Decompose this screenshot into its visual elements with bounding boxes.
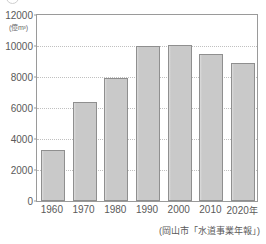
y-axis-unit-label: (億m³) [9,22,28,32]
y-axis-tick-mark [34,201,37,202]
y-axis-tick-label: 12000 [5,10,33,21]
y-axis-tick-label: 10000 [5,41,33,52]
y-axis-tick-mark [34,139,37,140]
bar [231,63,255,201]
bar [168,45,192,201]
x-axis-tick-label: 1990 [136,204,158,215]
plot-inner: 020004000600080001000012000 [37,15,257,201]
x-axis-tick-label: 2010 [199,204,221,215]
x-axis-tick-label: 1960 [41,204,63,215]
bar [136,46,160,201]
y-axis-tick-mark [34,15,37,16]
bar [41,150,65,201]
corner-circle-icon [6,0,19,4]
x-axis-tick-label: 2020年 [227,204,258,217]
x-axis-tick-label: 2000 [168,204,190,215]
y-axis-tick-label: 4000 [11,134,33,145]
y-axis-tick-mark [34,46,37,47]
y-axis-tick-label: 2000 [11,165,33,176]
bar-chart-figure: (億m³) 020004000600080001000012000 196019… [0,0,266,244]
y-axis-tick-mark [34,108,37,109]
bar [73,102,97,201]
y-axis-tick-label: 6000 [11,103,33,114]
x-axis-tick-label: 1970 [72,204,94,215]
bar [104,78,128,201]
y-axis-tick-label: 8000 [11,72,33,83]
y-axis-tick-mark [34,170,37,171]
x-axis-unit-suffix: 年 [249,206,258,216]
source-note: (岡山市「水道事業年報」) [159,224,260,237]
bar [199,54,223,201]
y-axis-tick-mark [34,77,37,78]
y-axis-tick-label: 0 [27,196,33,207]
x-axis-tick-label: 1980 [104,204,126,215]
plot-area: 020004000600080001000012000 [36,14,258,202]
